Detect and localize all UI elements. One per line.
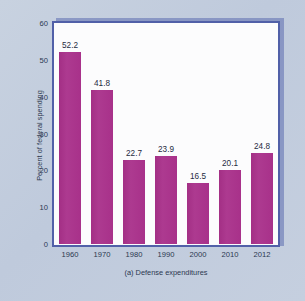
x-axis-tick-2000: 2000 [182,250,214,259]
x-axis-tick-2012: 2012 [246,250,278,259]
y-axis-tick-20: 20 [40,166,48,175]
bar-1970[interactable] [91,90,113,244]
x-axis-tick-1980: 1980 [118,250,150,259]
y-axis-tick-60: 60 [40,19,48,28]
bar-value-label-1980: 22.7 [118,149,150,158]
y-axis-tick-10: 10 [40,203,48,212]
bar-1960[interactable] [59,52,81,244]
bar-value-label-2000: 16.5 [182,172,214,181]
bar-value-label-2012: 24.8 [246,142,278,151]
plot-area: 52.241.822.723.916.520.124.8 [54,23,278,244]
x-axis-tick-1990: 1990 [150,250,182,259]
y-axis-tick-40: 40 [40,92,48,101]
y-axis-tick-0: 0 [44,240,48,249]
bar-value-label-1970: 41.8 [86,79,118,88]
y-axis-tick-labels: 0102030405060 [26,14,48,252]
figure-container: Percent of federal spending 010203040506… [0,0,305,301]
bar-2000[interactable] [187,183,209,244]
bar-2010[interactable] [219,170,241,244]
bar-value-label-1990: 23.9 [150,145,182,154]
figure-caption: (a) Defense expenditures [52,268,280,277]
x-axis-tick-1960: 1960 [54,250,86,259]
bar-value-label-2010: 20.1 [214,159,246,168]
x-axis-tick-2010: 2010 [214,250,246,259]
bar-1980[interactable] [123,160,145,244]
x-axis-tick-labels: 1960197019801990200020102012 [52,248,280,264]
y-axis-tick-30: 30 [40,129,48,138]
bar-2012[interactable] [251,153,273,244]
bar-value-label-1960: 52.2 [54,41,86,50]
bar-1990[interactable] [155,156,177,244]
y-axis-tick-50: 50 [40,55,48,64]
x-axis-tick-1970: 1970 [86,250,118,259]
